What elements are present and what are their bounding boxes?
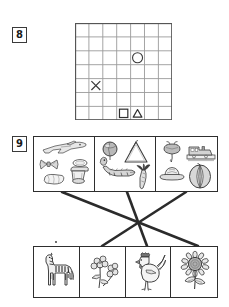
stray-dot bbox=[55, 241, 57, 243]
melon-icon bbox=[187, 163, 213, 189]
plot-grid-svg bbox=[75, 23, 172, 120]
bread-icon bbox=[42, 173, 66, 186]
cross-mark[interactable] bbox=[91, 81, 100, 90]
plot-grid[interactable] bbox=[75, 23, 172, 120]
bowtie-icon bbox=[39, 158, 59, 172]
picture-matching-exercise bbox=[0, 130, 229, 307]
picture-cell-bottom-3[interactable] bbox=[126, 247, 172, 297]
grid-border bbox=[75, 23, 171, 119]
hat-icon bbox=[159, 164, 185, 184]
train-icon bbox=[186, 141, 216, 163]
task-number-badge-8: 8 bbox=[12, 27, 27, 43]
line-top1-to-bottom4[interactable] bbox=[62, 192, 198, 246]
airplane-icon bbox=[41, 140, 89, 156]
crocodile-icon bbox=[97, 155, 137, 181]
picture-cell-bottom-1[interactable] bbox=[34, 247, 80, 297]
top-picture-row bbox=[33, 136, 218, 192]
mortar-icon bbox=[66, 158, 90, 186]
zebra-icon bbox=[40, 252, 76, 292]
picture-cell-top-3[interactable] bbox=[156, 137, 217, 191]
picture-cell-bottom-2[interactable] bbox=[80, 247, 126, 297]
square-mark[interactable] bbox=[119, 109, 127, 117]
carrot-icon bbox=[134, 164, 154, 191]
picture-cell-bottom-4[interactable] bbox=[171, 247, 217, 297]
picture-cell-top-2[interactable] bbox=[95, 137, 156, 191]
line-top2-to-bottom3[interactable] bbox=[127, 192, 147, 246]
picture-cell-top-1[interactable] bbox=[34, 137, 95, 191]
flowers-icon bbox=[87, 253, 120, 290]
circle-mark[interactable] bbox=[133, 53, 143, 63]
line-top3-to-bottom2[interactable] bbox=[102, 192, 186, 246]
rooster-icon bbox=[134, 251, 166, 291]
sunflower-icon bbox=[180, 251, 210, 291]
triangle-mark[interactable] bbox=[133, 110, 142, 118]
beet-icon bbox=[161, 141, 183, 163]
bottom-picture-row bbox=[33, 246, 218, 298]
